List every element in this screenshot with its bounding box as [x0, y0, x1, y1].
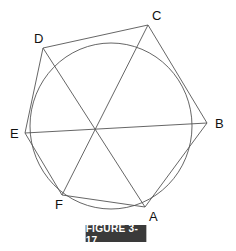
diagonal-be: [25, 123, 207, 133]
vertex-label-c: C: [152, 8, 161, 23]
inscribed-circle: [30, 43, 192, 209]
vertex-label-d: D: [34, 31, 43, 46]
diagonal-cf: [62, 25, 148, 195]
vertex-label-a: A: [149, 209, 158, 224]
vertex-label-f: F: [55, 197, 63, 212]
hexagon-circle-diagram: A B C D E F: [0, 0, 236, 251]
vertex-label-b: B: [215, 116, 224, 131]
vertex-label-e: E: [10, 126, 19, 141]
diagonals: [25, 25, 207, 207]
figure-caption: FIGURE 3-17: [86, 225, 147, 242]
hexagon-outline: [25, 25, 207, 207]
